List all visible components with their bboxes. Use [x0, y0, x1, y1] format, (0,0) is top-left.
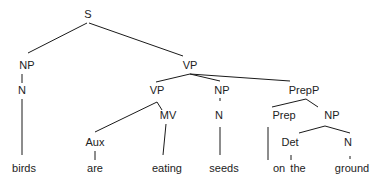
- node-n2: N: [215, 109, 223, 121]
- node-n3: N: [344, 136, 352, 148]
- node-vp2: VP: [150, 84, 165, 96]
- tree-nodes: SNPNVPVPNPPrepPAuxMVNPrepNPDetNbirdsaree…: [12, 8, 369, 174]
- tree-edge: [95, 102, 157, 132]
- leaf-word-birds: birds: [12, 162, 36, 174]
- node-mv: MV: [160, 109, 177, 121]
- node-s: S: [84, 8, 91, 20]
- tree-edge: [28, 23, 87, 53]
- leaf-word-are: are: [87, 162, 103, 174]
- tree-edge: [272, 99, 306, 107]
- tree-edge: [306, 99, 318, 107]
- leaf-word-ground: ground: [335, 162, 369, 174]
- tree-edge: [163, 124, 166, 155]
- node-np1: NP: [19, 59, 34, 71]
- leaf-word-eating: eating: [152, 162, 182, 174]
- leaf-word-seeds: seeds: [209, 162, 239, 174]
- syntax-tree-diagram: SNPNVPVPNPPrepPAuxMVNPrepNPDetNbirdsaree…: [0, 0, 386, 183]
- node-aux: Aux: [86, 136, 105, 148]
- tree-edge: [156, 74, 190, 82]
- node-np3: NP: [324, 109, 339, 121]
- tree-edge: [325, 126, 350, 133]
- node-prep: Prep: [272, 109, 295, 121]
- node-prepp: PrepP: [289, 84, 320, 96]
- leaf-word-the: the: [290, 162, 305, 174]
- node-n1: N: [18, 84, 26, 96]
- node-det: Det: [281, 136, 298, 148]
- node-vp1: VP: [183, 59, 198, 71]
- tree-edge: [299, 126, 325, 133]
- leaf-word-on: on: [273, 162, 285, 174]
- tree-edge: [89, 23, 183, 56]
- node-np2: NP: [214, 84, 229, 96]
